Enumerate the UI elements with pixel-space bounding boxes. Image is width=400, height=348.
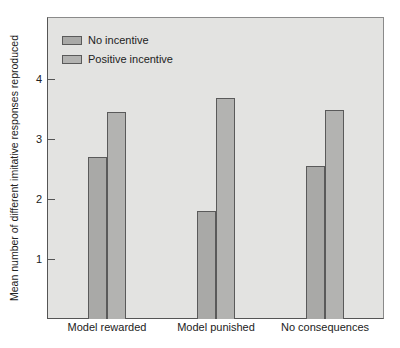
legend-label: Positive incentive [88, 53, 173, 65]
bar-positive-incentive [325, 110, 344, 319]
legend-label: No incentive [88, 34, 149, 46]
x-tick-label: Model punished [156, 321, 276, 333]
x-tick-label: No consequences [265, 321, 385, 333]
bar-no-incentive [197, 211, 216, 319]
x-tick-label: Model rewarded [47, 321, 167, 333]
legend-swatch [62, 55, 82, 64]
y-tick [47, 139, 55, 140]
bar-positive-incentive [216, 98, 235, 319]
legend-swatch [62, 36, 82, 45]
y-tick [47, 259, 55, 260]
legend-item-no-incentive: No incentive [62, 34, 149, 46]
bar-positive-incentive [107, 112, 126, 319]
y-tick-label: 2 [22, 193, 42, 205]
y-tick [47, 199, 55, 200]
y-tick [47, 79, 55, 80]
y-tick-label: 4 [22, 73, 42, 85]
y-tick-label: 1 [22, 253, 42, 265]
bar-no-incentive [306, 166, 325, 319]
legend-item-positive-incentive: Positive incentive [62, 53, 173, 65]
y-axis-label: Mean number of different imitative respo… [8, 35, 20, 301]
bar-no-incentive [88, 157, 107, 319]
y-tick-label: 3 [22, 133, 42, 145]
